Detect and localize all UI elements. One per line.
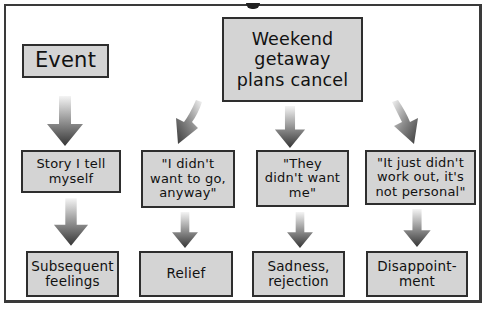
arrow-down-icon: [273, 106, 307, 148]
story-text-1: "I didn't want to go, anyway": [150, 157, 226, 201]
story-row-label-box: Story I tell myself: [21, 150, 121, 193]
story-text-2: "They didn't want me": [265, 157, 340, 201]
event-header-box: Event: [22, 44, 109, 78]
story-box-2: "They didn't want me": [256, 150, 349, 207]
clipped-title-glyph: [246, 3, 260, 9]
arrow-down-icon: [169, 212, 201, 248]
story-box-1: "I didn't want to go, anyway": [141, 150, 235, 208]
trigger-event-label: Weekend getaway plans cancel: [237, 29, 349, 91]
feeling-text-3: Disappoint- ment: [377, 259, 457, 289]
trigger-event-box: Weekend getaway plans cancel: [222, 17, 363, 102]
story-text-3: "It just didn't work out, it's not perso…: [375, 156, 465, 200]
arrow-down-icon: [401, 209, 433, 247]
arrow-down-icon: [52, 198, 90, 246]
arrow-down-right-icon: [386, 100, 422, 146]
feelings-row-label-box: Subsequent feelings: [26, 251, 119, 297]
arrow-down-icon: [284, 212, 316, 248]
story-row-label: Story I tell myself: [36, 157, 105, 186]
arrow-down-left-icon: [172, 100, 208, 146]
event-header-label: Event: [35, 49, 96, 73]
feeling-box-2: Sadness, rejection: [252, 251, 345, 297]
feeling-text-1: Relief: [167, 266, 206, 281]
arrow-down-icon: [45, 96, 85, 146]
feelings-row-label: Subsequent feelings: [31, 259, 113, 289]
story-box-3: "It just didn't work out, it's not perso…: [365, 150, 476, 205]
feeling-box-1: Relief: [139, 251, 233, 297]
feeling-box-3: Disappoint- ment: [366, 251, 468, 297]
feeling-text-2: Sadness, rejection: [267, 259, 329, 289]
